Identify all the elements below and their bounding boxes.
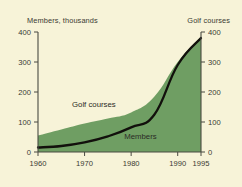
y-tick-label-right: 400 [208, 28, 221, 37]
area-series-golf-courses [38, 37, 201, 153]
y-tick-label-left: 0 [27, 148, 31, 157]
series-annotation-golf-courses: Golf courses [72, 100, 116, 109]
x-tick-label: 1980 [123, 159, 140, 168]
series-annotation-members: Members [124, 132, 157, 141]
x-tick-label: 1995 [193, 159, 210, 168]
y-tick-label-left: 300 [18, 58, 31, 67]
y-tick-label-right: 0 [208, 148, 212, 157]
y-tick-label-left: 400 [18, 28, 31, 37]
plot-area: 0100200300400010020030040019601970198019… [0, 0, 242, 187]
x-tick-label: 1960 [30, 159, 47, 168]
x-tick-label: 1990 [169, 159, 186, 168]
y-tick-label-right: 300 [208, 58, 221, 67]
y-tick-label-right: 200 [208, 88, 221, 97]
y-tick-label-left: 100 [18, 118, 31, 127]
chart-figure: Members, thousands Golf courses 01002003… [0, 0, 242, 187]
y-tick-label-left: 200 [18, 88, 31, 97]
x-tick-label: 1970 [76, 159, 93, 168]
y-tick-label-right: 100 [208, 118, 221, 127]
